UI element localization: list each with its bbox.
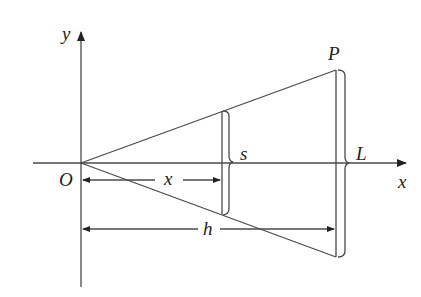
point-P-label: P — [327, 43, 340, 64]
segment-s-label: s — [240, 143, 247, 164]
distance-h-label: h — [203, 218, 213, 239]
y-axis-label: y — [60, 23, 71, 44]
x-axis-label: x — [397, 171, 407, 192]
distance-x-label: x — [163, 168, 173, 189]
diagram-canvas: y x O P x h s L — [0, 0, 421, 297]
segment-L-label: L — [355, 143, 367, 164]
origin-label: O — [59, 169, 73, 190]
